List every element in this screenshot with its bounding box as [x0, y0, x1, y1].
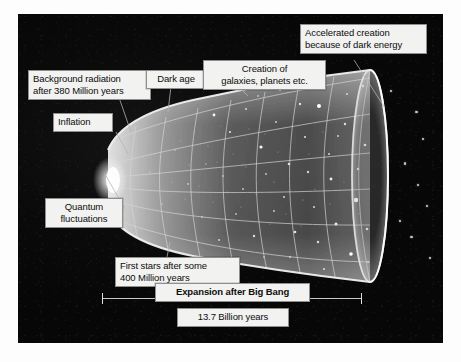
label-inflation: Inflation	[53, 113, 113, 132]
label-accelerated-creation: Accelerated creation because of dark ene…	[300, 24, 427, 54]
timeline-duration: 13.7 Billion years	[177, 308, 289, 327]
label-quantum-fluctuations: Quantum fluctuations	[45, 198, 123, 228]
timeline-caption: Expansion after Big Bang	[155, 283, 310, 302]
label-creation-of-galaxies: Creation of galaxies, planets etc.	[203, 60, 326, 90]
label-background-radiation: Background radiation after 380 Million y…	[28, 70, 151, 100]
measure-cap-left	[102, 293, 103, 304]
measure-cap-right	[361, 293, 362, 304]
figure-canvas: Background radiation after 380 Million y…	[0, 0, 461, 362]
label-dark-age: Dark age	[146, 70, 206, 89]
